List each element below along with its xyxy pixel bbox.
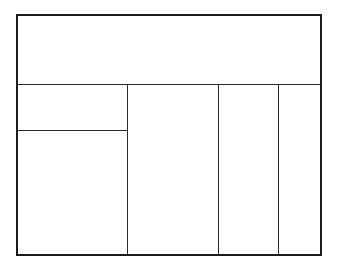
left-bottom-cell [18,131,127,254]
outer-frame [16,14,322,256]
column-4-cell [279,85,320,254]
left-top-cell [18,85,127,130]
header-region [18,16,320,84]
column-2-cell [128,85,218,254]
column-3-cell [219,85,278,254]
